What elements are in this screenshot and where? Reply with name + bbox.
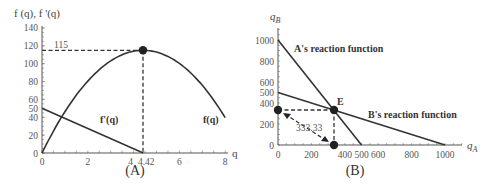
y-tick-label: 120 — [24, 41, 39, 51]
x-tick-label: 200 — [304, 150, 319, 160]
panel-b-arrowhead-left-icon — [283, 113, 291, 119]
panel-b-chart: qB 02004005006008001000 0200400500600800… — [255, 10, 478, 179]
x-tick-label: 0 — [40, 157, 45, 167]
y-tick-label: 50 — [29, 104, 39, 114]
panel-a-x-axis-label: q — [232, 147, 238, 159]
x-tick-label: 600 — [371, 150, 386, 160]
y-tick-label: 800 — [260, 57, 275, 67]
panel-b-b-reaction-label: B's reaction function — [368, 109, 457, 120]
panel-a-f-label: f(q) — [203, 114, 219, 126]
x-tick-label: 6 — [177, 157, 182, 167]
y-tick-label: 200 — [260, 120, 275, 130]
x-tick-label: 2 — [85, 157, 90, 167]
y-tick-label: 60 — [29, 95, 39, 105]
panel-a-fprime-line — [42, 108, 143, 153]
y-tick-label: 0 — [269, 141, 274, 151]
x-tick-label: 8 — [223, 157, 228, 167]
panel-b-x-point — [330, 141, 338, 149]
y-tick-label: 600 — [260, 78, 275, 88]
x-tick-label: 0 — [276, 150, 281, 160]
y-tick-label: 500 — [260, 88, 275, 98]
y-tick-label: 1000 — [255, 36, 274, 46]
y-tick-label: 140 — [24, 23, 39, 33]
x-tick-label: 400 — [338, 150, 353, 160]
panel-b-y-axis-label: qB — [270, 10, 281, 25]
panel-a-caption: (A) — [125, 163, 145, 179]
panel-b-y-ticks: 02004005006008001000 — [255, 30, 280, 151]
panel-b-a-reaction-label: A's reaction function — [294, 43, 384, 54]
panel-b-x-ticks: 02004005006008001000 — [276, 143, 462, 160]
panel-a-max-point — [139, 46, 147, 54]
y-tick-label: 400 — [260, 99, 275, 109]
panel-a-f-curve — [42, 50, 225, 153]
panel-b-x-axis-label: qA — [467, 139, 478, 154]
panel-a-chart: f (q), f '(q) 02040506080100120140 0244.… — [14, 7, 238, 179]
panel-b-arrowhead-right-icon — [321, 136, 329, 142]
figure: f (q), f '(q) 02040506080100120140 0244.… — [0, 0, 494, 184]
panel-a-y-axis-label: f (q), f '(q) — [14, 7, 60, 20]
panel-b-equilibrium-point — [330, 106, 338, 114]
x-tick-label: 500 — [354, 150, 369, 160]
y-tick-label: 0 — [33, 149, 38, 159]
y-tick-label: 20 — [29, 131, 39, 141]
y-tick-label: 80 — [29, 77, 39, 87]
panel-b-e-label: E — [337, 96, 344, 107]
panel-b-caption: (B) — [346, 163, 365, 179]
panel-b-distance-label: 333.33 — [296, 123, 322, 133]
panel-a-label-115: 115 — [54, 40, 68, 50]
y-tick-label: 100 — [24, 59, 39, 69]
y-tick-label: 40 — [29, 113, 39, 123]
panel-b-y-point — [274, 106, 282, 114]
x-tick-label: 800 — [404, 150, 419, 160]
panel-a-fprime-label: f'(q) — [100, 114, 118, 126]
x-tick-label: 1000 — [436, 150, 455, 160]
